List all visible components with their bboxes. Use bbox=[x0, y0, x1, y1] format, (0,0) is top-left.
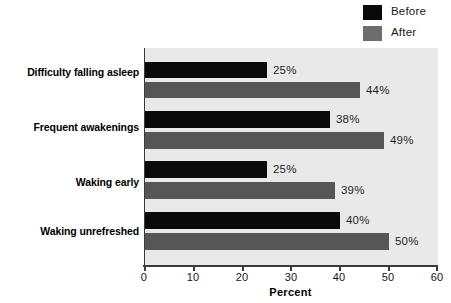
value-label-after-waking-unrefreshed: 50% bbox=[395, 236, 419, 248]
bar-after-waking-unrefreshed bbox=[145, 233, 389, 250]
category-label-waking-early: Waking early bbox=[76, 177, 139, 188]
plot-area: 25% 44% 38% 49% 25% 39% 40% 50% bbox=[144, 48, 438, 265]
value-label-before-difficulty-falling-asleep: 25% bbox=[273, 65, 297, 77]
value-label-after-frequent-awakenings: 49% bbox=[390, 135, 414, 147]
legend-item-before: Before bbox=[363, 3, 451, 21]
value-label-before-frequent-awakenings: 38% bbox=[336, 114, 360, 126]
x-tick-label-50: 50 bbox=[382, 272, 395, 283]
x-axis-title: Percent bbox=[144, 287, 437, 298]
x-tick-label-20: 20 bbox=[236, 272, 249, 283]
category-label-waking-unrefreshed: Waking unrefreshed bbox=[40, 226, 139, 237]
bar-after-waking-early bbox=[145, 182, 335, 199]
legend-item-after: After bbox=[363, 24, 451, 42]
category-label-frequent-awakenings: Frequent awakenings bbox=[34, 122, 139, 133]
bar-after-difficulty-falling-asleep bbox=[145, 82, 360, 98]
bar-before-waking-unrefreshed bbox=[145, 212, 340, 229]
value-label-after-difficulty-falling-asleep: 44% bbox=[366, 85, 390, 97]
value-label-before-waking-unrefreshed: 40% bbox=[346, 215, 370, 227]
value-label-before-waking-early: 25% bbox=[273, 164, 297, 176]
x-tick-label-30: 30 bbox=[285, 272, 298, 283]
x-tick-label-0: 0 bbox=[141, 272, 147, 283]
chart-legend: Before After bbox=[363, 3, 451, 45]
category-label-difficulty-falling-asleep: Difficulty falling asleep bbox=[27, 67, 139, 78]
bar-chart: Before After Difficulty falling asleep F… bbox=[0, 0, 451, 303]
x-tick-label-40: 40 bbox=[333, 272, 346, 283]
bar-before-difficulty-falling-asleep bbox=[145, 62, 267, 78]
bar-before-waking-early bbox=[145, 161, 267, 178]
value-label-after-waking-early: 39% bbox=[341, 185, 365, 197]
bar-before-frequent-awakenings bbox=[145, 111, 330, 128]
x-tick-label-60: 60 bbox=[431, 272, 444, 283]
bar-after-frequent-awakenings bbox=[145, 132, 384, 149]
x-tick-label-10: 10 bbox=[187, 272, 200, 283]
category-axis-labels: Difficulty falling asleep Frequent awake… bbox=[0, 0, 139, 303]
legend-swatch-after-icon bbox=[363, 26, 382, 41]
legend-label-before: Before bbox=[391, 6, 426, 18]
legend-label-after: After bbox=[391, 27, 416, 39]
legend-swatch-before-icon bbox=[363, 5, 382, 20]
